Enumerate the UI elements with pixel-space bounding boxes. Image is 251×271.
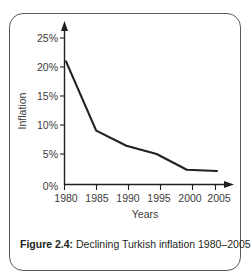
x-tick-label-2000: 2000 bbox=[178, 192, 202, 204]
x-tick-label-2005: 2005 bbox=[207, 192, 231, 204]
inflation-line-series bbox=[66, 61, 217, 171]
y-tick-label-5: 5% bbox=[43, 148, 58, 160]
y-tick-label-15: 15% bbox=[37, 90, 58, 102]
x-tick-label-1995: 1995 bbox=[147, 192, 171, 204]
x-tick-label-1985: 1985 bbox=[85, 192, 109, 204]
y-axis-title: Inflation bbox=[16, 92, 28, 129]
y-tick-label-10: 10% bbox=[37, 119, 58, 131]
figure-caption-label: Figure 2.4: bbox=[20, 238, 73, 250]
figure-caption: Figure 2.4: Declining Turkish inflation … bbox=[20, 237, 235, 251]
y-axis-arrowhead bbox=[61, 21, 68, 31]
x-tick-label-1990: 1990 bbox=[116, 192, 140, 204]
y-tick-label-20: 20% bbox=[37, 61, 58, 73]
y-tick-label-25: 25% bbox=[37, 32, 58, 44]
chart-plot-area: 25% 20% 15% 10% 5% 0% bbox=[0, 18, 251, 218]
figure-caption-text: Declining Turkish inflation 1980–2005 bbox=[76, 238, 251, 250]
x-axis-arrowhead bbox=[224, 181, 234, 188]
x-tick-label-1980: 1980 bbox=[54, 192, 78, 204]
line-chart-svg: 25% 20% 15% 10% 5% 0% bbox=[0, 18, 251, 218]
x-axis-title: Years bbox=[132, 208, 158, 218]
y-tick-label-0: 0% bbox=[43, 180, 58, 192]
